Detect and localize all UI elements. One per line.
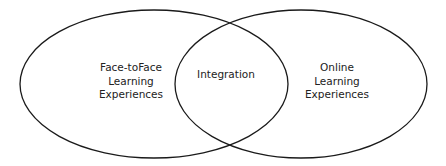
integration-text: Integration: [186, 68, 266, 82]
face-to-face-line-2: Learning: [73, 75, 189, 89]
online-label: Online Learning Experiences: [287, 61, 387, 102]
online-line-2: Learning: [287, 75, 387, 89]
online-line-3: Experiences: [287, 88, 387, 102]
face-to-face-line-3: Experiences: [73, 88, 189, 102]
face-to-face-label: Face-toFace Learning Experiences: [73, 61, 189, 102]
online-line-1: Online: [287, 61, 387, 75]
face-to-face-line-1: Face-toFace: [73, 61, 189, 75]
integration-label: Integration: [186, 68, 266, 82]
